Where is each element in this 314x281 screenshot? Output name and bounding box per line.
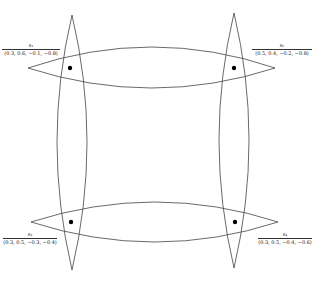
vertex-dot-s2	[232, 66, 236, 70]
right-hyperedge-lens	[219, 13, 249, 268]
label-s1-vector: (0.3, 0.6, −0.1, −0.8)	[2, 49, 60, 56]
top-hyperedge-lens	[28, 47, 275, 88]
label-s1: s₁ (0.3, 0.6, −0.1, −0.8)	[2, 43, 60, 56]
label-s4: s₄ (0.3, 0.5, −0.4, −0.6)	[258, 232, 312, 245]
label-s3-vector: (0.3, 0.5, −0.3, −0.4)	[3, 238, 57, 245]
hypergraph-diagram: s₁ (0.3, 0.6, −0.1, −0.8) s₂ (0.5, 0.4, …	[0, 0, 314, 281]
vertex-dot-s4	[233, 220, 237, 224]
vertex-dot-s1	[68, 66, 72, 70]
vertex-dot-s3	[69, 220, 73, 224]
label-s2-vector: (0.5, 0.4, −0.2, −0.8)	[252, 49, 312, 56]
label-s3: s₃ (0.3, 0.5, −0.3, −0.4)	[3, 232, 57, 245]
label-s4-vector: (0.3, 0.5, −0.4, −0.6)	[258, 238, 312, 245]
label-s2: s₂ (0.5, 0.4, −0.2, −0.8)	[252, 43, 312, 56]
